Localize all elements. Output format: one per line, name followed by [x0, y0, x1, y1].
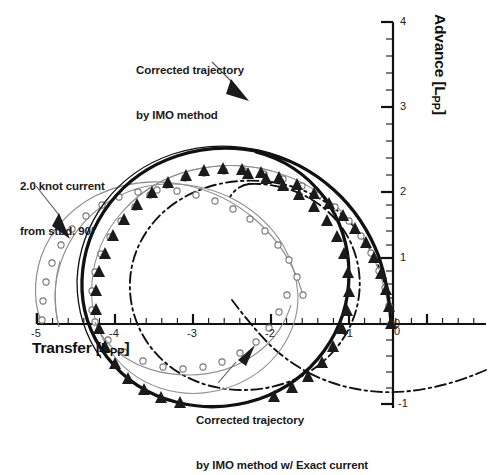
- annotation-imo-line1: Corrected trajectory: [136, 63, 244, 78]
- y-tick-label-1: 1: [400, 251, 406, 263]
- y-axis-title: Advance [LPP]: [430, 14, 449, 115]
- y-tick-label-4: 4: [400, 15, 406, 27]
- series-exact-current: [130, 181, 391, 390]
- annotation-exact-line2: by IMO method w/ Exact current: [196, 458, 368, 473]
- x-axis-unit-subscript: PP: [110, 346, 124, 358]
- annotation-exact-line1: Corrected trajectory: [196, 413, 368, 428]
- y-tick-label-3: 3: [400, 100, 406, 112]
- y-tick-label-2: 2: [400, 185, 406, 197]
- series-imo-corrected: [77, 146, 397, 408]
- annotation-current-line2: from stbd. 90°: [20, 224, 105, 239]
- annotation-exact: Corrected trajectory by IMO method w/ Ex…: [196, 384, 368, 475]
- annotation-imo-line2: by IMO method: [136, 108, 244, 123]
- y-axis: [381, 22, 393, 408]
- y-tick-label-0: 0: [394, 317, 400, 329]
- x-axis: [37, 313, 486, 324]
- annotation-current-line1: 2.0 knot current: [20, 179, 105, 194]
- x-tick-label--3: -3: [187, 327, 197, 339]
- y-axis-unit-subscript: PP: [430, 96, 442, 110]
- y-axis-title-text: Advance [: [432, 14, 449, 86]
- x-axis-unit: L: [101, 339, 110, 356]
- annotation-current: 2.0 knot current from stbd. 90°: [20, 150, 105, 268]
- x-tick-label--2: -2: [265, 327, 275, 339]
- y-tick-label--1: -1: [398, 397, 408, 409]
- x-tick-label--4: -4: [109, 327, 119, 339]
- x-axis-title-close: ]: [124, 339, 129, 356]
- x-tick-label--5: -5: [31, 327, 41, 339]
- series-exact-current-lower: [232, 300, 486, 392]
- annotation-imo: Corrected trajectory by IMO method: [136, 34, 244, 152]
- x-axis-title: Transfer [LPP]: [32, 339, 129, 358]
- x-tick-label--1: -1: [343, 327, 353, 339]
- y-axis-unit: L: [432, 86, 449, 95]
- x-axis-title-text: Transfer [: [32, 339, 101, 356]
- y-axis-title-close: ]: [432, 110, 449, 115]
